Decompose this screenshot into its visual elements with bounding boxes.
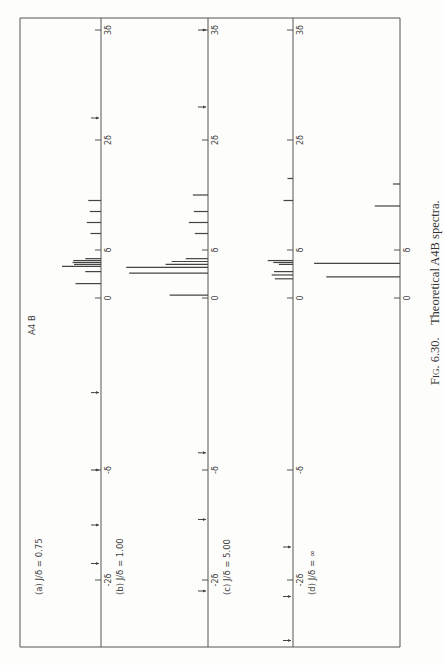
- axis-tick-label: 0: [296, 295, 305, 300]
- axis-tick-label: δ: [403, 247, 412, 252]
- axis-tick-label: δ: [296, 247, 305, 252]
- spectra-figure: -2δ-δ0δ2δ3δ(a) J/δ = 0.75-2δ-δ0δ2δ3δ(b) …: [0, 0, 445, 665]
- arrow-icon: [203, 590, 206, 593]
- arrow-icon: [203, 106, 206, 109]
- arrow-icon: [203, 29, 206, 32]
- arrow-icon: [288, 595, 291, 598]
- axis-tick-label: -δ: [104, 466, 113, 474]
- axis-tick-label: -δ: [211, 466, 220, 474]
- axis-tick-label: -δ: [296, 466, 305, 474]
- caption-number: 6.30.: [428, 337, 442, 362]
- arrow-icon: [203, 451, 206, 454]
- spectrum-panel-d: 0δ(d) J/δ = ∞: [307, 184, 412, 595]
- axis-tick-label: δ: [211, 247, 220, 252]
- panels-layer: -2δ-δ0δ2δ3δ(a) J/δ = 0.75-2δ-δ0δ2δ3δ(b) …: [27, 25, 412, 642]
- caption-text: Theoretical A4B spectra.: [428, 200, 442, 325]
- panel-baselines: [101, 18, 293, 647]
- axis-tick-label: 2δ: [104, 135, 113, 145]
- axis-tick-label: 3δ: [104, 25, 113, 35]
- arrow-icon: [96, 117, 99, 120]
- system-label: A4 B: [27, 315, 37, 335]
- axis-tick-label: 0: [211, 295, 220, 300]
- arrow-icon: [288, 546, 291, 549]
- axis-tick-label: 0: [104, 295, 113, 300]
- panel-label: (a) J/δ = 0.75: [34, 538, 44, 595]
- caption-prefix: Fig.: [428, 365, 442, 385]
- axis-tick-label: 3δ: [211, 25, 220, 35]
- arrow-icon: [288, 639, 291, 642]
- axis-tick-label: -2δ: [104, 573, 113, 586]
- panel-label: (b) J/δ = 1.00: [115, 538, 125, 595]
- axis-tick-label: 2δ: [296, 135, 305, 145]
- arrow-icon: [96, 469, 99, 472]
- spectrum-panel-b: -2δ-δ0δ2δ3δ(b) J/δ = 1.00: [115, 25, 220, 595]
- figure-caption: Fig. 6.30. Theoretical A4B spectra.: [428, 200, 443, 385]
- arrow-icon: [96, 562, 99, 565]
- axis-tick-label: -2δ: [296, 573, 305, 586]
- arrow-icon: [203, 518, 206, 521]
- axis-tick-label: 0: [403, 295, 412, 300]
- axis-tick-label: δ: [104, 247, 113, 252]
- axis-tick-label: 3δ: [296, 25, 305, 35]
- arrow-icon: [96, 524, 99, 527]
- axis-tick-label: 2δ: [211, 135, 220, 145]
- axis-tick-label: -2δ: [211, 573, 220, 586]
- panel-label: (c) J/δ = 5.00: [222, 539, 232, 595]
- panel-label: (d) J/δ = ∞: [307, 550, 317, 595]
- figure-frame: [20, 18, 400, 647]
- spectrum-panel-c: -2δ-δ0δ2δ3δ(c) J/δ = 5.00: [222, 25, 305, 642]
- arrow-icon: [96, 391, 99, 394]
